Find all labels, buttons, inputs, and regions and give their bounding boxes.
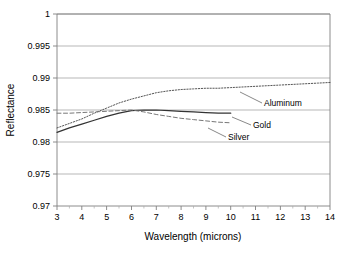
x-tick-label: 4 bbox=[79, 212, 84, 222]
y-tick-label: 0.98 bbox=[32, 137, 50, 147]
y-tick-label: 0.99 bbox=[32, 73, 50, 83]
y-tick-label: 0.97 bbox=[32, 201, 50, 211]
x-tick-label: 9 bbox=[203, 212, 208, 222]
y-tick-label: 0.985 bbox=[27, 105, 50, 115]
x-tick-label: 6 bbox=[129, 212, 134, 222]
x-tick-label: 3 bbox=[54, 212, 59, 222]
y-tick-label: 1 bbox=[45, 9, 50, 19]
y-tick-label: 0.975 bbox=[27, 169, 50, 179]
y-tick-labels: 0.970.9750.980.9850.990.9951 bbox=[27, 9, 50, 211]
chart-canvas: 0.970.9750.980.9850.990.9951 34567891011… bbox=[0, 0, 348, 254]
x-tick-label: 13 bbox=[300, 212, 310, 222]
series-label-silver: Silver bbox=[228, 132, 249, 142]
x-tick-label: 12 bbox=[275, 212, 285, 222]
x-tick-label: 8 bbox=[179, 212, 184, 222]
x-tick-label: 5 bbox=[104, 212, 109, 222]
x-tick-label: 10 bbox=[226, 212, 236, 222]
x-tick-label: 7 bbox=[154, 212, 159, 222]
y-axis-title: Reflectance bbox=[5, 83, 16, 136]
y-tick-label: 0.995 bbox=[27, 41, 50, 51]
y-axis-ticks bbox=[53, 14, 57, 206]
reflectance-chart: 0.970.9750.980.9850.990.9951 34567891011… bbox=[0, 0, 348, 254]
series-label-gold: Gold bbox=[253, 120, 271, 130]
x-tick-label: 11 bbox=[251, 212, 260, 222]
x-tick-label: 14 bbox=[325, 212, 335, 222]
series-label-aluminum: Aluminum bbox=[264, 98, 302, 108]
x-tick-labels: 34567891011121314 bbox=[54, 212, 335, 222]
x-axis-title: Wavelength (microns) bbox=[145, 231, 242, 242]
